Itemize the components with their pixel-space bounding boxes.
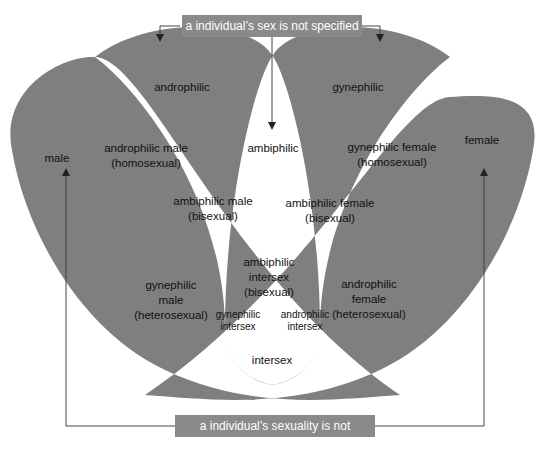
label-female: female [465, 133, 500, 148]
sex-not-specified-box: a individual’s sex is not specified [182, 15, 362, 37]
text-line: intersex [216, 321, 260, 333]
label-ambiphilic-male: ambiphilic male (bisexual) [173, 194, 252, 224]
label-gynephilic-intersex: gynephilic intersex [216, 309, 260, 333]
text-line: (bisexual) [173, 209, 252, 224]
label-ambiphilic-intersex: ambiphilic intersex (bisexual) [243, 255, 294, 300]
text-line: (homosexual) [348, 155, 437, 170]
text-line: male [134, 293, 208, 308]
text-line: intersex [243, 270, 294, 285]
text-line: androphilic male [104, 141, 188, 156]
text-line: (bisexual) [286, 211, 375, 226]
text-line: ambiphilic female [286, 196, 375, 211]
text-line: female [332, 292, 406, 307]
label-androphilic: androphilic [154, 80, 210, 95]
text-line: intersex [281, 321, 329, 333]
text-line: androphilic [332, 277, 406, 292]
text-line: (heterosexual) [332, 307, 406, 322]
text-line: ambiphilic [243, 255, 294, 270]
text-line: androphilic [281, 309, 329, 321]
sexuality-not-specified-box: a individual’s sexuality is not specifie… [175, 415, 375, 437]
label-gynephilic: gynephilic [332, 80, 383, 95]
text-line: ambiphilic male [173, 194, 252, 209]
label-gynephilic-male: gynephilic male (heterosexual) [134, 278, 208, 323]
label-ambiphilic: ambiphilic [247, 141, 298, 156]
label-androphilic-intersex: androphilic intersex [281, 309, 329, 333]
label-intersex: intersex [252, 353, 292, 368]
text-line: gynephilic female [348, 140, 437, 155]
text-line: gynephilic [216, 309, 260, 321]
text-line: (bisexual) [243, 285, 294, 300]
label-gynephilic-female: gynephilic female (homosexual) [348, 140, 437, 170]
text-line: gynephilic [134, 278, 208, 293]
text-line: (homosexual) [104, 156, 188, 171]
label-male: male [45, 151, 70, 166]
label-androphilic-female: androphilic female (heterosexual) [332, 277, 406, 322]
venn-diagram [0, 0, 545, 454]
text-line: (heterosexual) [134, 308, 208, 323]
label-ambiphilic-female: ambiphilic female (bisexual) [286, 196, 375, 226]
label-androphilic-male: androphilic male (homosexual) [104, 141, 188, 171]
